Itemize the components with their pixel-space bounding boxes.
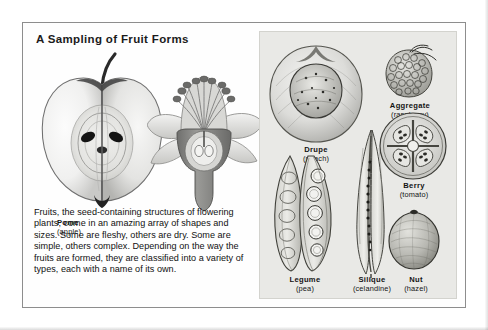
raspberry-aggregate-svg [378,44,440,100]
page-title: A Sampling of Fruit Forms [36,33,189,45]
pea-legume-illustration [268,152,342,274]
left-illustration-zone: Pome (apple) [23,49,259,221]
body-paragraph: Fruits, the seed-containing structures o… [34,207,246,275]
illustration-plate: A Sampling of Fruit Forms [22,22,466,308]
raspberry-aggregate-illustration [378,44,440,100]
figure-label-sub: (pea) [268,285,342,293]
scanned-page: A Sampling of Fruit Forms [0,0,488,330]
hazel-nut-svg [384,208,444,272]
flower-cross-section-illustration [147,53,265,213]
figure-label-sub: (hazel) [394,285,438,293]
hazel-nut-illustration [384,208,444,272]
pea-legume-svg [268,152,342,274]
figure-label-legume: Legume (pea) [268,276,342,293]
fruit-types-panel: Drupe (peach) [259,31,457,299]
figure-label-nut: Nut (hazel) [394,276,438,293]
flower-cross-section-svg [147,53,265,213]
